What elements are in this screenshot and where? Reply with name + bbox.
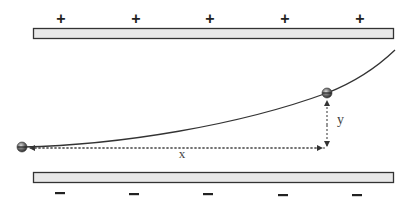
minus-sign (278, 194, 288, 196)
minus-sign (352, 194, 362, 196)
plus-sign: + (131, 10, 140, 27)
y-label: y (337, 112, 344, 127)
trajectory-curve (22, 50, 395, 147)
plus-sign: + (56, 10, 65, 27)
x-label: x (179, 146, 186, 161)
deflection-diagram: + + + + + x y (0, 0, 420, 206)
particle-current (322, 88, 332, 98)
negative-signs (55, 192, 362, 196)
positive-signs: + + + + + (56, 10, 364, 27)
negative-plate (34, 173, 394, 183)
particle-initial (17, 142, 27, 152)
plus-sign: + (205, 10, 214, 27)
plus-sign: + (280, 10, 289, 27)
plus-sign: + (355, 10, 364, 27)
positive-plate (34, 29, 394, 39)
minus-sign (203, 193, 213, 195)
minus-sign (55, 192, 65, 194)
minus-sign (129, 193, 139, 195)
